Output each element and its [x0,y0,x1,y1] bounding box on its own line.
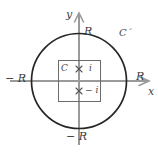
x-axis-label: x [148,86,154,97]
outer-contour-label: C´ [119,28,132,38]
pole-label-i: i [89,64,92,73]
radius-label-right: R [136,71,144,82]
inner-contour-label: C [61,64,68,73]
radius-label-bottom: − R [66,131,87,142]
pole-label-minus-i: − i [85,86,98,95]
y-axis-label: y [66,9,72,20]
complex-plane-figure: y x R R − R − R C´ C i − i [0,0,158,153]
radius-label-left: − R [5,73,26,84]
radius-label-top: R [84,26,92,37]
